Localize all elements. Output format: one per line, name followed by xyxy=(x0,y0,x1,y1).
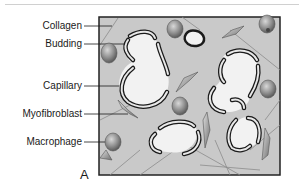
macrophage-cell xyxy=(167,20,183,38)
tissue-diagram xyxy=(0,0,299,187)
capillary-small-top xyxy=(185,31,204,46)
macrophage-cell xyxy=(101,43,117,63)
macrophage-cell xyxy=(260,80,276,98)
macrophage-cell xyxy=(172,97,188,115)
macrophage-cell xyxy=(105,133,121,151)
